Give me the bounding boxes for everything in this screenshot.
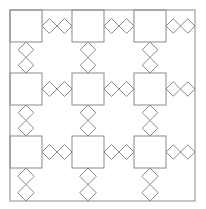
diamond-shape	[142, 185, 159, 202]
grid-square	[134, 73, 166, 105]
grid-square	[72, 73, 104, 105]
diamond-shape	[142, 121, 158, 137]
grid-square	[10, 136, 42, 168]
diamond-shape	[57, 82, 72, 97]
diamond-shape	[42, 19, 57, 34]
diamond-shape	[18, 121, 34, 137]
grid-square	[72, 136, 104, 168]
diamond-shape	[142, 105, 158, 121]
diamond-shape	[181, 145, 196, 160]
squares-group	[10, 10, 166, 168]
grid-square	[10, 10, 42, 42]
diamond-shape	[166, 145, 181, 160]
diamond-shape	[181, 82, 196, 97]
diamond-shape	[80, 185, 97, 202]
diamond-shape	[18, 168, 35, 185]
diamond-shape	[142, 168, 159, 185]
diamond-shape	[166, 82, 181, 97]
diamond-shape	[119, 19, 134, 34]
diamond-shape	[18, 58, 34, 74]
diamonds-group	[18, 19, 195, 202]
diamond-shape	[57, 145, 72, 160]
diamond-shape	[104, 19, 119, 34]
diamond-shape	[119, 82, 134, 97]
diamond-shape	[80, 42, 96, 58]
diamond-shape	[104, 145, 119, 160]
diamond-shape	[42, 82, 57, 97]
diamond-shape	[166, 19, 181, 34]
diamond-shape	[18, 105, 34, 121]
grid-square	[134, 136, 166, 168]
grid-square	[10, 73, 42, 105]
diamond-shape	[142, 58, 158, 74]
diamond-shape	[80, 58, 96, 74]
diamond-shape	[142, 42, 158, 58]
diamond-shape	[57, 19, 72, 34]
grid-square	[134, 10, 166, 42]
grid-square	[72, 10, 104, 42]
tiling-diagram	[0, 0, 206, 209]
diamond-shape	[80, 168, 97, 185]
diamond-shape	[80, 105, 96, 121]
diamond-shape	[119, 145, 134, 160]
diamond-shape	[104, 82, 119, 97]
diamond-shape	[181, 19, 196, 34]
diamond-shape	[42, 145, 57, 160]
diamond-shape	[18, 185, 35, 202]
diamond-shape	[18, 42, 34, 58]
diamond-shape	[80, 121, 96, 137]
